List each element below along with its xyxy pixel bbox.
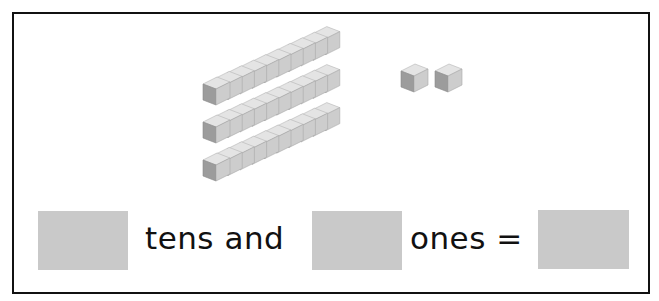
ones-equals-label: ones = bbox=[410, 223, 523, 254]
base-ten-blocks bbox=[0, 0, 659, 200]
total-answer-box[interactable] bbox=[538, 210, 629, 269]
unit-cube-2-icon bbox=[435, 64, 462, 92]
unit-cube-1-icon bbox=[401, 64, 428, 92]
ones-answer-box[interactable] bbox=[312, 211, 402, 270]
tens-answer-box[interactable] bbox=[38, 211, 128, 270]
tens-and-label: tens and bbox=[145, 223, 284, 254]
